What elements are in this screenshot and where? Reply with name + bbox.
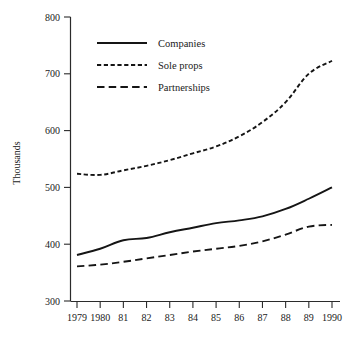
line-chart: 300400500600700800 197919808182838485868… [0,0,361,339]
y-axis-ticks: 300400500600700800 [45,12,71,307]
x-tick-label: 86 [234,312,244,323]
series-line-partnerships [77,225,332,266]
x-tick-label: 1990 [322,312,342,323]
x-tick-label: 1979 [67,312,87,323]
x-tick-label: 83 [165,312,175,323]
x-tick-label: 82 [142,312,152,323]
series-line-companies [77,187,332,255]
x-tick-label: 81 [118,312,128,323]
series-line-sole-props [77,61,332,175]
chart-canvas: 300400500600700800 197919808182838485868… [0,0,361,339]
x-tick-label: 84 [188,312,198,323]
y-tick-label: 800 [45,12,60,23]
y-axis-title: Thousands [11,141,22,184]
y-tick-label: 300 [45,296,60,307]
x-axis-ticks: 197919808182838485868788891990 [67,302,342,324]
legend-label-partnerships: Partnerships [158,82,210,93]
x-tick-label: 87 [257,312,267,323]
x-tick-label: 1980 [90,312,110,323]
y-tick-label: 400 [45,239,60,250]
chart-legend: CompaniesSole propsPartnerships [97,38,210,93]
y-tick-label: 600 [45,125,60,136]
y-tick-label: 500 [45,182,60,193]
x-tick-label: 89 [304,312,314,323]
y-tick-label: 700 [45,68,60,79]
legend-label-sole-props: Sole props [158,60,203,71]
x-tick-label: 85 [211,312,221,323]
legend-label-companies: Companies [158,38,205,49]
x-tick-label: 88 [281,312,291,323]
